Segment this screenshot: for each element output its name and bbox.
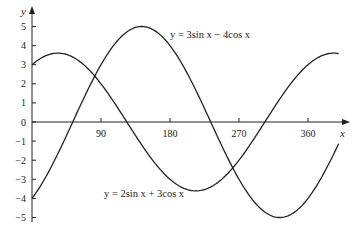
y-tick-label: −5 [15,212,26,223]
annotation-series-1: y = 3sin x − 4cos x [170,29,251,40]
y-tick-label: −3 [15,174,26,185]
y-tick-label: −1 [15,136,26,147]
x-axis-label: x [339,127,345,139]
labels: x y y = 3sin x − 4cos x y = 2sin x + 3co… [20,5,345,199]
chart: 90180270360−5−4−3−2−1012345 x y y = 3sin… [0,0,357,235]
x-axis-arrow [342,119,350,125]
y-tick-label: 2 [21,78,26,89]
y-axis-arrow [29,6,35,14]
x-tick-label: 270 [232,128,247,139]
y-tick-label: 1 [21,97,26,108]
y-tick-label: 3 [21,59,26,70]
y-tick-label: 5 [21,21,26,32]
annotation-series-2: y = 2sin x + 3cos x [104,188,185,199]
y-tick-label: 4 [21,40,26,51]
x-tick-label: 90 [96,128,106,139]
y-tick-label: −4 [15,193,26,204]
x-tick-label: 360 [301,128,316,139]
y-axis-label: y [20,5,26,17]
y-tick-label: 0 [21,117,26,128]
x-tick-label: 180 [163,128,178,139]
y-tick-label: −2 [15,155,26,166]
